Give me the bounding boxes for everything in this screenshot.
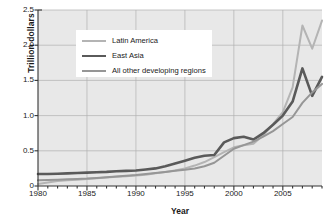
x-tick-label: 2005	[266, 189, 300, 198]
y-tick-label-text: 1.0	[8, 111, 34, 120]
legend-line-swatch	[82, 70, 106, 72]
legend-line-swatch	[82, 55, 106, 57]
x-tick-label: 2000	[217, 189, 251, 198]
legend-entry: East Asia	[82, 49, 210, 62]
y-tick-label-text: 2.0	[8, 40, 34, 49]
chart-legend: Latin AmericaEast AsiaAll other developi…	[76, 30, 212, 77]
legend-label: Latin America	[112, 34, 158, 47]
legend-entry: Latin America	[82, 34, 210, 47]
y-tick-label: 2.0	[0, 40, 34, 50]
x-tick-label: 1995	[168, 189, 202, 198]
x-tick-label: 1980	[21, 189, 55, 198]
y-tick-label-text: 0.5	[8, 146, 34, 155]
legend-label: All other developing regions	[112, 64, 206, 77]
y-tick-label: 1.0	[0, 111, 34, 121]
legend-label: East Asia	[112, 49, 144, 62]
y-tick-label: 2.5	[0, 5, 34, 15]
x-tick-label: 1990	[119, 189, 153, 198]
legend-line-swatch	[82, 40, 106, 42]
legend-entry: All other developing regions	[82, 64, 210, 77]
y-tick-label: 1.5	[0, 75, 34, 85]
x-tick-label: 1985	[70, 189, 104, 198]
y-tick-label-text: 1.5	[8, 75, 34, 84]
y-tick-label: 0.5	[0, 146, 34, 156]
chart-figure: Trillion dollars Year 00.51.01.52.02.519…	[0, 0, 329, 221]
y-tick-label-text: 2.5	[8, 5, 34, 14]
